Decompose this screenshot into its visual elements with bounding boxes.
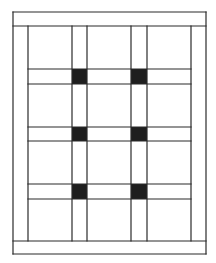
filled-square: [72, 69, 87, 84]
filled-square: [131, 184, 147, 199]
filled-square: [72, 184, 87, 199]
grid-drawing: [0, 0, 216, 263]
grid-diagram: [0, 0, 216, 263]
filled-square: [131, 69, 147, 84]
filled-square: [72, 127, 87, 141]
filled-square: [131, 127, 147, 141]
